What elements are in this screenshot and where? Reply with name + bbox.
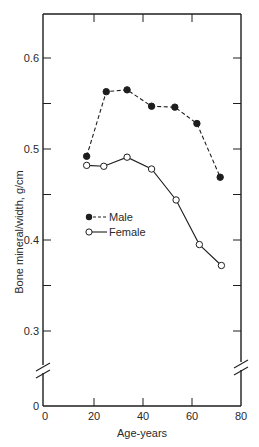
x-tick-label: 60 [186, 410, 198, 422]
plot-frame [36, 14, 248, 406]
data-point-female [83, 162, 89, 168]
data-point-male [194, 120, 200, 126]
data-point-male [217, 174, 223, 180]
legend-female-marker-icon [86, 229, 92, 235]
data-series [83, 87, 224, 269]
legend-male-marker-icon [86, 214, 92, 220]
x-tick-label: 0 [42, 410, 48, 422]
data-point-male [103, 88, 109, 94]
y-tick-label: 0 [33, 400, 39, 412]
data-point-female [218, 262, 224, 268]
data-point-female [124, 154, 130, 160]
x-axis-title: Age-years [117, 427, 168, 439]
y-tick-label: 0.5 [24, 143, 39, 155]
axis-ticks [43, 14, 241, 406]
y-tick-label: 0.3 [24, 325, 39, 337]
y-axis-title: Bone mineral/width, g/cm [13, 170, 25, 294]
data-point-male [124, 87, 130, 93]
data-point-female [101, 163, 107, 169]
legend: Male Female [86, 211, 146, 238]
data-point-male [172, 104, 178, 110]
data-point-male [83, 153, 89, 159]
data-point-male [148, 103, 154, 109]
x-tick-label: 40 [137, 410, 149, 422]
series-line-female [87, 157, 222, 265]
x-tick-label: 20 [88, 410, 100, 422]
y-tick-label: 0.4 [24, 234, 39, 246]
data-point-female [196, 241, 202, 247]
data-point-female [173, 197, 179, 203]
y-tick-label: 0.6 [24, 52, 39, 64]
data-point-female [148, 166, 154, 172]
legend-male-label: Male [109, 211, 133, 223]
legend-female-label: Female [109, 226, 146, 238]
x-tick-label: 80 [235, 410, 247, 422]
bone-mineral-chart: 02040608000.30.40.50.6 Male Female Age-y… [0, 0, 259, 447]
